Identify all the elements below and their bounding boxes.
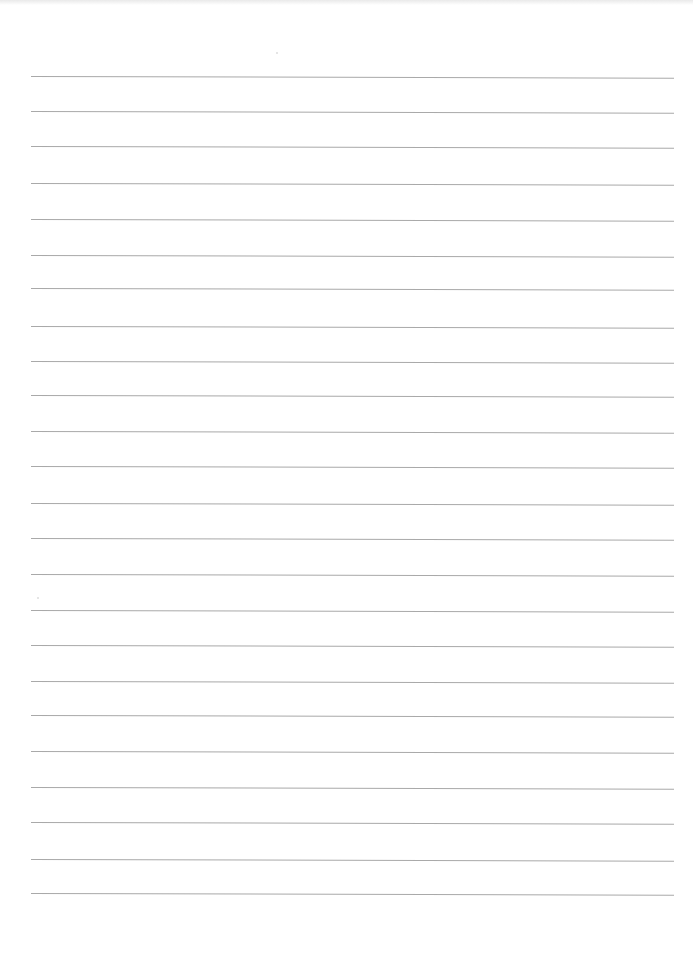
- ruled-line: [31, 610, 674, 613]
- ruled-line: [31, 574, 674, 577]
- ruled-line: [31, 431, 674, 434]
- ruled-line: [31, 111, 674, 114]
- ruled-line: [31, 361, 674, 364]
- ruled-line: [31, 715, 674, 718]
- ruled-line: [31, 288, 674, 291]
- ruled-line: [31, 787, 674, 790]
- ruled-line: [31, 183, 674, 186]
- ruled-line: [31, 681, 674, 684]
- ruled-line: [31, 395, 674, 398]
- ruled-line: [31, 326, 674, 329]
- ruled-line: [31, 645, 674, 648]
- ruled-line: [31, 859, 674, 862]
- ruled-line: [31, 538, 674, 541]
- ruled-line: [31, 503, 674, 506]
- ruled-line: [31, 893, 674, 896]
- ruled-line: [31, 255, 674, 258]
- ruled-line: [31, 146, 674, 149]
- paper-speck: [37, 597, 39, 599]
- ruled-line: [31, 219, 674, 222]
- ruled-line: [31, 76, 674, 79]
- ruled-line: [31, 822, 674, 825]
- ruled-line: [31, 466, 674, 469]
- lined-paper-page: [0, 0, 693, 955]
- paper-speck: [276, 52, 278, 54]
- ruled-line: [31, 751, 674, 754]
- scan-shadow: [0, 0, 693, 5]
